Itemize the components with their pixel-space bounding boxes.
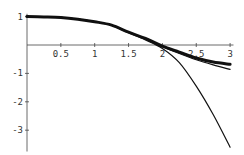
y-tick-label: -2 (12, 97, 23, 107)
y-tick-label: -3 (12, 125, 23, 135)
thin-curve-steep (27, 17, 230, 148)
x-tick-label: 1 (92, 49, 97, 59)
y-tick-label: 1 (18, 12, 23, 22)
curves (27, 17, 230, 148)
y-tick-label: -1 (12, 68, 23, 78)
x-tick-label: 1.5 (120, 49, 136, 59)
chart-svg: 0.511.522.531-1-2-3 (0, 0, 244, 155)
x-tick-label: 0.5 (53, 49, 69, 59)
x-tick-label: 3 (227, 49, 232, 59)
x-tick-label: 2 (160, 49, 165, 59)
line-chart: 0.511.522.531-1-2-3 (0, 0, 244, 155)
